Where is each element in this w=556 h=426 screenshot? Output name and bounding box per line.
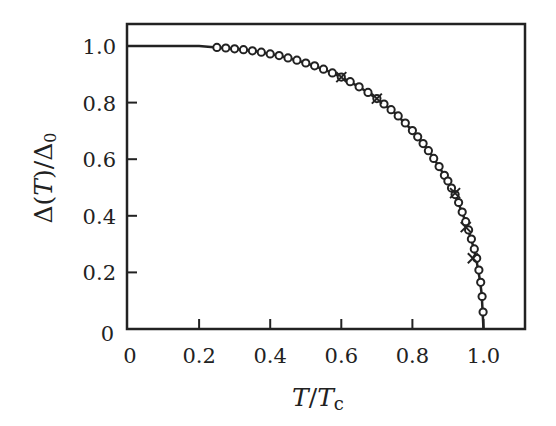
circle-marker — [468, 235, 475, 242]
circle-marker — [436, 163, 443, 170]
circle-marker — [249, 47, 256, 54]
circle-marker — [395, 112, 402, 119]
circle-marker — [222, 44, 229, 51]
circle-marker — [347, 78, 354, 85]
circle-marker — [479, 293, 486, 300]
cross-markers — [336, 72, 478, 263]
circle-marker — [414, 133, 421, 140]
y-axis-label: Δ(T)/Δ0 — [29, 133, 60, 224]
circle-marker — [425, 147, 432, 154]
circle-marker — [356, 83, 363, 90]
circle-marker — [320, 66, 327, 73]
theory-curve — [128, 46, 484, 329]
circle-marker — [480, 308, 487, 315]
circle-marker — [258, 49, 265, 56]
circle-marker — [459, 209, 466, 216]
circle-marker — [471, 245, 478, 252]
circle-markers — [213, 44, 486, 316]
circle-marker — [240, 46, 247, 53]
x-tick-label: 1.0 — [467, 344, 500, 368]
x-axis-label: T/Tc — [292, 383, 344, 414]
circle-marker — [402, 119, 409, 126]
x-tick-label: 0 — [123, 344, 136, 368]
circle-marker — [284, 54, 291, 61]
circle-marker — [267, 50, 274, 57]
circle-marker — [293, 57, 300, 64]
x-tick-label: 0.6 — [325, 344, 358, 368]
circle-marker — [475, 267, 482, 274]
x-tick-label: 0.4 — [253, 344, 286, 368]
y-tick-label: 0.6 — [83, 148, 116, 172]
circle-marker — [455, 199, 462, 206]
theory-line — [128, 46, 484, 329]
circle-marker — [477, 279, 484, 286]
y-tick-label: 0.8 — [83, 92, 116, 116]
circle-marker — [430, 155, 437, 162]
y-axis-ticks: 00.20.40.60.81.0 — [83, 35, 137, 346]
circle-marker — [388, 106, 395, 113]
gap-temperature-chart: 00.20.40.60.81.0 00.20.40.60.81.0 T/Tc Δ… — [0, 0, 556, 426]
circle-marker — [409, 127, 416, 134]
circle-marker — [231, 45, 238, 52]
circle-marker — [213, 44, 220, 51]
x-axis-ticks: 00.20.40.60.81.0 — [123, 319, 500, 368]
circle-marker — [364, 89, 371, 96]
x-tick-label: 0.8 — [396, 344, 429, 368]
y-tick-label: 0.2 — [83, 261, 116, 285]
circle-marker — [420, 140, 427, 147]
y-tick-label: 0.4 — [83, 205, 116, 229]
circle-marker — [444, 177, 451, 184]
circle-marker — [302, 59, 309, 66]
y-tick-label: 0 — [101, 322, 114, 346]
x-tick-label: 0.2 — [182, 344, 215, 368]
circle-marker — [329, 69, 336, 76]
circle-marker — [276, 52, 283, 59]
circle-marker — [311, 62, 318, 69]
y-tick-label: 1.0 — [83, 35, 116, 59]
